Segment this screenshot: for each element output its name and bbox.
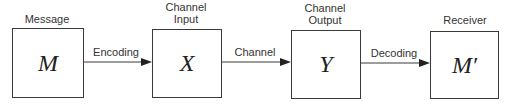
decoding-label: Decoding <box>366 47 422 59</box>
channel-input-box: X <box>152 29 222 98</box>
channel-output-box: Y <box>291 30 361 99</box>
encoding-label: Encoding <box>88 46 144 58</box>
channel-output-title: Channel Output <box>300 2 350 26</box>
receiver-title: Receiver <box>438 14 492 26</box>
channel-input-title-line2: Input <box>161 13 211 25</box>
channel-input-title: Channel Input <box>161 1 211 25</box>
channel-input-symbol: X <box>180 50 195 77</box>
receiver-symbol: M′ <box>452 52 477 79</box>
channel-label: Channel <box>227 46 283 58</box>
channel-output-title-line1: Channel <box>300 2 350 14</box>
message-box: M <box>12 28 84 98</box>
channel-input-title-line1: Channel <box>161 1 211 13</box>
message-symbol: M <box>38 50 58 77</box>
arrow-channel <box>221 58 291 66</box>
channel-output-title-line2: Output <box>300 14 350 26</box>
arrow-encoding <box>83 58 152 66</box>
receiver-box: M′ <box>430 31 499 99</box>
channel-output-symbol: Y <box>319 51 332 78</box>
message-title: Message <box>22 13 72 25</box>
arrow-decoding <box>360 59 430 67</box>
